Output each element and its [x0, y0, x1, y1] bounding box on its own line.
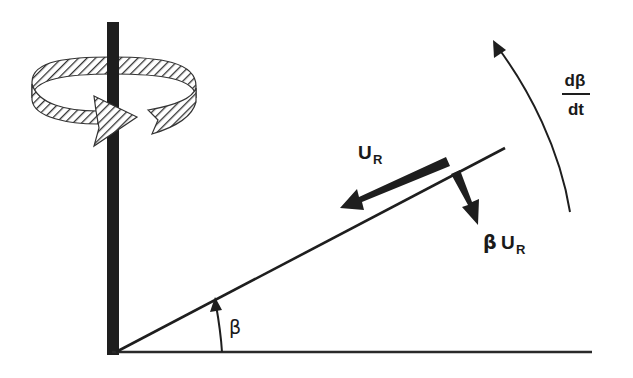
beta-u-r-main: U	[501, 232, 515, 253]
label-angle-beta: β	[229, 316, 241, 338]
inclined-line	[116, 148, 505, 352]
ribbon-front-band	[32, 84, 98, 124]
diagram-canvas: U R β U R β dβ dt	[0, 0, 633, 378]
rate-denominator: dt	[568, 100, 584, 119]
vertical-axis	[107, 22, 119, 355]
label-u-r: U R	[358, 142, 383, 167]
rate-numerator: dβ	[565, 71, 586, 90]
radial-velocity-arrow-icon	[340, 157, 450, 210]
angular-rate-arrow-icon	[493, 40, 570, 212]
ribbon-tail	[148, 88, 196, 134]
label-beta-u-r: β U R	[483, 231, 526, 257]
angle-arc-arrow-icon	[210, 297, 222, 352]
normal-velocity-arrow-icon	[451, 170, 479, 225]
u-r-sub: R	[373, 152, 383, 167]
beta-u-r-sub: R	[516, 242, 526, 257]
label-rate: dβ dt	[562, 71, 590, 119]
beta-u-r-prefix: β	[483, 231, 497, 253]
u-r-main: U	[358, 142, 372, 163]
